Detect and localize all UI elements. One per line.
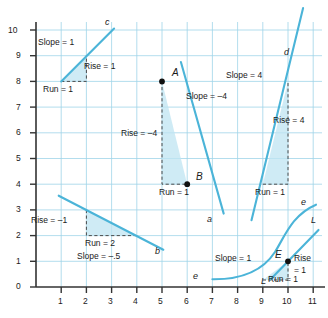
curve-label-e-left: e [193,272,198,281]
annotation-b-rise: Rise = –1 [31,216,67,225]
annotation-c-rise: Rise = 1 [84,62,115,71]
y-tick-3: 3 [16,204,21,214]
y-tick-7: 7 [16,102,21,112]
x-tick-5: 5 [158,296,163,306]
point-A [159,79,165,85]
annotation-a-rise: Rise = –4 [121,129,157,138]
x-tick-2: 2 [83,296,88,306]
point-E [285,258,291,264]
y-tick-9: 9 [16,50,21,60]
x-tick-1: 1 [58,296,63,306]
curve-label-b: b [155,247,160,256]
x-tick-3: 3 [108,296,113,306]
curve-label-L-right: L [311,216,316,225]
curve-label-d: d [284,48,289,57]
annotation-L-slope: Slope = 1 [215,254,251,263]
point-label-A: A [172,68,179,78]
annotation-a-slope: Slope = –4 [186,92,227,101]
annotation-L-rise: Rise [294,254,311,263]
x-tick-10: 10 [282,296,291,306]
annotation-L-run: Run = 1 [268,275,298,284]
annotation-a-run: Run = 1 [159,188,189,197]
y-tick-8: 8 [16,76,21,86]
annotation-b-slope: Slope = –.5 [77,252,120,261]
y-tick-4: 4 [16,179,21,189]
annotation-c-slope: Slope = 1 [38,38,74,47]
annotation-d-run: Run = 1 [255,188,285,197]
curve-label-a: a [207,215,212,224]
y-tick-6: 6 [16,127,21,137]
annotation-d-rise: Rise = 4 [273,116,304,125]
y-tick-10: 10 [8,25,17,35]
x-tick-9: 9 [259,296,264,306]
y-tick-1: 1 [16,256,21,266]
y-tick-5: 5 [16,153,21,163]
x-tick-11: 11 [308,296,317,306]
x-tick-4: 4 [133,296,138,306]
point-label-E: E [275,250,282,260]
annotation-b-run: Run = 2 [85,239,115,248]
x-tick-8: 8 [234,296,239,306]
curve-label-c: c [105,18,110,27]
curve-label-e-right: e [301,198,306,207]
x-tick-6: 6 [184,296,189,306]
x-tick-7: 7 [209,296,214,306]
curve-label-L-bottom: L [261,277,266,286]
y-tick-2: 2 [16,230,21,240]
slope-diagram-canvas [0,0,328,318]
y-tick-0: 0 [16,281,21,291]
point-label-B: B [196,172,203,182]
annotation-c-run: Run = 1 [43,85,73,94]
annotation-d-slope: Slope = 4 [226,71,262,80]
slope-diagram: 10 9 8 7 6 5 4 3 2 1 0 1 2 3 4 5 6 7 8 9… [0,0,328,318]
